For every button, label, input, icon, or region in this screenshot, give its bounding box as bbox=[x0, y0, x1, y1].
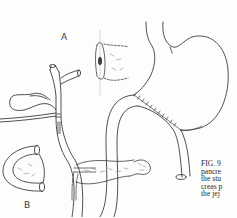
medical-illustration-figure: A B FIG. 9 pancre the stu creas p the je… bbox=[0, 0, 237, 217]
caption-line: the jej bbox=[201, 190, 237, 198]
stomach bbox=[134, 22, 228, 130]
t-tube-drain bbox=[0, 113, 56, 122]
panel-label-a: A bbox=[61, 32, 67, 42]
pancreas-remnant bbox=[72, 160, 150, 200]
jejunal-open-end bbox=[176, 175, 186, 180]
pancreatic-stump-detail bbox=[96, 30, 129, 95]
figure-caption: FIG. 9 pancre the stu creas p the jej bbox=[201, 160, 237, 198]
gallbladder bbox=[10, 93, 56, 110]
panel-label-b: B bbox=[24, 200, 30, 210]
jejunal-loop bbox=[100, 95, 190, 217]
gastrojejunal-suture-line bbox=[134, 93, 202, 130]
inset-b-drawing bbox=[3, 146, 45, 192]
common-bile-duct bbox=[50, 65, 83, 218]
